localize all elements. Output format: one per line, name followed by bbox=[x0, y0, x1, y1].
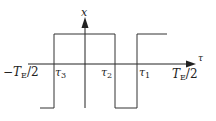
square-wave-diagram: x τ −TE/2 τ3 τ2 τ1 TE/2 bbox=[0, 0, 216, 121]
tau2-label: τ2 bbox=[101, 66, 112, 80]
x-axis-label: x bbox=[81, 6, 88, 19]
left-bound-label: −TE/2 bbox=[3, 65, 39, 80]
tau-axis-label: τ bbox=[198, 53, 204, 63]
tau1-label: τ1 bbox=[139, 66, 150, 80]
right-bound-label: TE/2 bbox=[172, 67, 198, 82]
tau3-label: τ3 bbox=[55, 66, 66, 80]
